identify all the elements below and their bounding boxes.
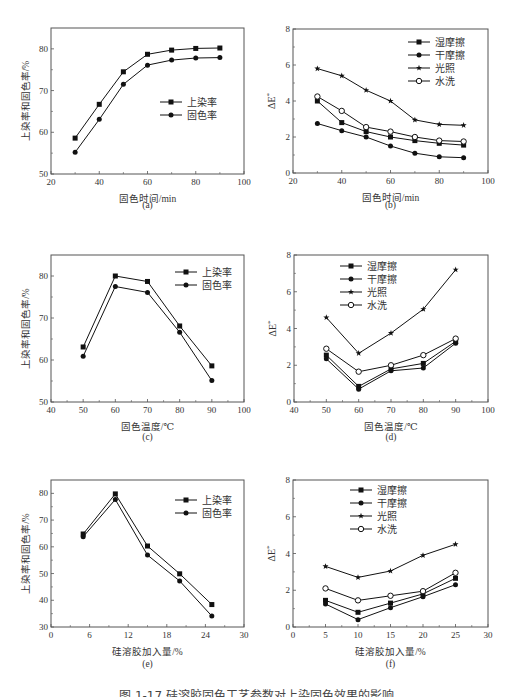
x-tick-label: 20 — [419, 630, 429, 640]
legend-label: 固色率 — [202, 507, 232, 519]
x-tick-label: 40 — [337, 176, 347, 186]
chart-c: 40506070809010050607080固色温度/℃上染率和固色率/%上染… — [20, 255, 251, 443]
data-point-marker — [323, 602, 328, 607]
data-point-marker — [323, 586, 328, 591]
panel-label: (c) — [142, 432, 153, 443]
series-circle — [81, 284, 215, 383]
legend-label: 水洗 — [367, 300, 387, 311]
data-point-marker — [421, 366, 426, 371]
y-tick-label: 40 — [39, 595, 49, 605]
data-point-marker — [97, 102, 102, 107]
data-point-marker — [388, 135, 393, 140]
data-point-marker — [356, 387, 361, 392]
legend-marker — [359, 488, 364, 493]
data-point-marker — [363, 87, 369, 93]
y-tick-label: 50 — [39, 569, 49, 579]
data-point-marker — [217, 55, 222, 60]
data-point-marker — [177, 323, 182, 328]
data-point-marker — [324, 346, 329, 351]
data-point-marker — [453, 570, 458, 575]
x-tick-label: 90 — [451, 405, 461, 415]
y-tick-label: 70 — [39, 313, 49, 323]
y-axis-label: 上染率和固色率/% — [20, 288, 31, 369]
data-point-marker — [453, 576, 458, 581]
legend-label: 光照 — [367, 286, 387, 298]
x-tick-label: 80 — [435, 176, 445, 186]
data-point-marker — [388, 363, 393, 368]
y-tick-label: 4 — [286, 96, 291, 106]
y-tick-label: 80 — [39, 44, 49, 54]
data-point-marker — [387, 568, 393, 574]
legend-label: 湿摩擦 — [435, 36, 465, 48]
data-point-marker — [145, 544, 150, 549]
panel-label: (a) — [142, 200, 153, 211]
data-point-marker — [113, 274, 118, 279]
data-point-marker — [356, 617, 361, 622]
data-point-marker — [452, 541, 458, 547]
data-point-marker — [145, 52, 150, 57]
data-point-marker — [461, 155, 466, 160]
legend-marker — [184, 270, 189, 275]
x-axis-label: 固色温度/℃ — [121, 421, 175, 432]
x-tick-label: 12 — [124, 630, 133, 640]
x-tick-label: 100 — [237, 405, 251, 415]
data-point-marker — [121, 82, 126, 87]
data-point-marker — [356, 369, 361, 374]
legend-marker — [416, 65, 422, 71]
data-point-marker — [121, 69, 126, 74]
legend: 上染率固色率 — [175, 494, 232, 519]
data-point-marker — [363, 124, 368, 129]
x-tick-label: 25 — [451, 630, 461, 640]
legend-marker — [184, 498, 189, 503]
panel-label: (b) — [385, 200, 396, 211]
data-point-marker — [73, 150, 78, 155]
legend: 湿摩擦干摩擦光照水洗 — [340, 260, 397, 311]
y-tick-label: 50 — [39, 397, 49, 407]
data-point-marker — [388, 605, 393, 610]
data-point-marker — [356, 610, 361, 615]
data-point-marker — [169, 48, 174, 53]
panel-label: (e) — [142, 659, 153, 670]
y-tick-label: 60 — [39, 355, 49, 365]
x-tick-label: 30 — [240, 630, 250, 640]
y-tick-label: 60 — [39, 127, 49, 137]
y-tick-label: 6 — [287, 287, 292, 297]
y-tick-label: 6 — [286, 60, 291, 70]
y-tick-label: 60 — [39, 542, 49, 552]
figure-canvas: 2040608010050607080固色时间/min上染率和固色率/%上染率固… — [0, 0, 513, 697]
y-tick-label: 2 — [287, 360, 292, 370]
data-point-marker — [209, 378, 214, 383]
legend-marker — [417, 40, 422, 45]
panel-label: (d) — [385, 432, 396, 443]
data-point-marker — [339, 108, 344, 113]
series-square — [81, 491, 215, 607]
data-point-marker — [314, 65, 320, 71]
data-point-marker — [388, 601, 393, 606]
data-point-marker — [209, 602, 214, 607]
data-point-marker — [339, 128, 344, 133]
x-tick-label: 24 — [201, 630, 211, 640]
legend-marker — [417, 53, 422, 58]
chart-a: 2040608010050607080固色时间/min上染率和固色率/%上染率固… — [20, 28, 251, 211]
x-tick-label: 6 — [87, 630, 92, 640]
data-point-marker — [388, 129, 393, 134]
data-point-marker — [461, 122, 467, 128]
data-point-marker — [145, 290, 150, 295]
x-tick-label: 5 — [323, 630, 328, 640]
y-tick-label: 30 — [39, 622, 49, 632]
legend-marker — [348, 289, 354, 295]
data-point-marker — [209, 363, 214, 368]
data-point-marker — [412, 134, 417, 139]
legend-marker — [358, 513, 364, 519]
y-tick-label: 80 — [39, 271, 49, 281]
legend-marker — [349, 277, 354, 282]
data-point-marker — [421, 594, 426, 599]
x-tick-label: 0 — [49, 630, 54, 640]
data-point-marker — [412, 151, 417, 156]
data-point-marker — [420, 552, 426, 558]
legend: 上染率固色率 — [160, 96, 217, 121]
chart-e: 0612182430304050607080硅溶胶加入量/%上染率和固色率/%上… — [20, 480, 249, 670]
chart-b: 2040608010002468固色时间/minΔE*湿摩擦干摩擦光照水洗(b) — [265, 24, 495, 211]
x-tick-label: 10 — [354, 630, 364, 640]
y-tick-label: 50 — [39, 169, 49, 179]
